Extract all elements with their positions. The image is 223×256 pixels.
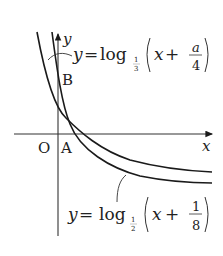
equation-log-third: y = log 1 3 x + a 4 <box>72 38 208 73</box>
svg-text:1: 1 <box>131 216 135 224</box>
svg-text:log: log <box>99 204 126 224</box>
leader-line-upper <box>48 53 72 60</box>
y-axis-label: y <box>62 30 72 48</box>
svg-text:+: + <box>165 44 179 64</box>
leader-line-lower <box>117 175 126 202</box>
svg-text:=: = <box>84 44 98 64</box>
equation-log-half: y = log 1 2 x + 1 8 <box>67 197 208 233</box>
x-axis-label: x <box>202 137 211 155</box>
svg-text:log: log <box>100 44 127 64</box>
origin-label: O <box>38 139 50 157</box>
svg-text:3: 3 <box>134 65 138 73</box>
svg-text:=: = <box>79 204 93 224</box>
svg-text:4: 4 <box>192 58 200 73</box>
svg-text:y: y <box>72 44 83 64</box>
svg-text:x: x <box>154 44 164 64</box>
point-a-label: A <box>60 139 72 157</box>
svg-text:x: x <box>152 204 162 224</box>
svg-text:1: 1 <box>134 56 138 64</box>
svg-text:a: a <box>192 40 200 55</box>
svg-text:1: 1 <box>192 199 200 214</box>
svg-text:2: 2 <box>131 225 135 233</box>
svg-text:y: y <box>67 204 78 224</box>
point-b-label: B <box>62 71 73 89</box>
log-graph-diagram: y x O A B y = log 1 3 x + a 4 y = log 1 … <box>0 0 223 256</box>
svg-text:+: + <box>165 204 179 224</box>
svg-text:8: 8 <box>192 218 200 233</box>
